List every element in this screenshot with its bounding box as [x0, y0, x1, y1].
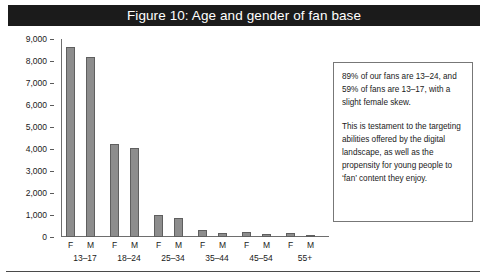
- y-axis-tick-label: 2,000: [26, 188, 50, 198]
- bar: [66, 47, 75, 237]
- x-axis-gender-label: M: [259, 240, 275, 250]
- x-axis-gender-label: F: [283, 240, 299, 250]
- x-axis-gender-label: F: [195, 240, 211, 250]
- x-axis-age-label: 13–17: [63, 253, 107, 263]
- y-axis-tick: 6,000: [26, 100, 54, 110]
- x-axis-gender-label: F: [63, 240, 79, 250]
- y-axis-tick-label: 1,000: [26, 210, 50, 220]
- x-axis-age-label: 55+: [283, 253, 327, 263]
- bar: [130, 148, 139, 237]
- bar: [174, 218, 183, 237]
- x-axis-age-label: 35–44: [195, 253, 239, 263]
- y-axis-tick-mark: [50, 61, 54, 62]
- y-axis-tick: 5,000: [26, 122, 54, 132]
- y-axis-tick: 3,000: [26, 166, 54, 176]
- bar: [262, 234, 271, 237]
- y-axis-tick-label: 3,000: [26, 166, 50, 176]
- bar: [306, 235, 315, 237]
- page-title: Figure 10: Age and gender of fan base: [127, 8, 361, 23]
- figure-container: Figure 10: Age and gender of fan base 01…: [0, 0, 486, 277]
- y-axis-tick-label: 0: [42, 232, 50, 242]
- y-axis-tick-mark: [50, 127, 54, 128]
- footer-divider: [6, 271, 480, 272]
- y-axis-tick: 1,000: [26, 210, 54, 220]
- x-axis-labels: FM13–17FM18–24FM25–34FM35–44FM45–54FM55+: [62, 240, 330, 270]
- y-axis-tick-mark: [50, 105, 54, 106]
- y-axis-tick: 4,000: [26, 144, 54, 154]
- y-axis-tick-label: 4,000: [26, 144, 50, 154]
- figure-title-banner: Figure 10: Age and gender of fan base: [8, 5, 480, 26]
- y-axis-tick-mark: [50, 193, 54, 194]
- y-axis-tick-mark: [50, 237, 54, 238]
- y-axis-tick-mark: [50, 149, 54, 150]
- bar: [242, 232, 251, 237]
- bar: [198, 230, 207, 237]
- callout-textbox: 89% of our fans are 13–24, and 59% of fa…: [333, 62, 473, 222]
- y-axis-tick: 9,000: [26, 34, 54, 44]
- y-axis-tick: 7,000: [26, 78, 54, 88]
- y-axis-tick-mark: [50, 171, 54, 172]
- y-axis-tick-mark: [50, 215, 54, 216]
- bar-series: [62, 39, 328, 237]
- bar: [86, 57, 95, 237]
- x-axis-gender-label: F: [107, 240, 123, 250]
- bar: [154, 215, 163, 237]
- x-axis-gender-label: M: [127, 240, 143, 250]
- y-axis-tick: 2,000: [26, 188, 54, 198]
- bar: [218, 233, 227, 237]
- y-axis: 01,0002,0003,0004,0005,0006,0007,0008,00…: [0, 32, 54, 234]
- callout-paragraph: This is testament to the targeting abili…: [342, 120, 464, 186]
- x-axis-age-label: 18–24: [107, 253, 151, 263]
- x-axis-age-label: 25–34: [151, 253, 195, 263]
- y-axis-tick-label: 9,000: [26, 34, 50, 44]
- x-axis-gender-label: M: [303, 240, 319, 250]
- y-axis-tick-label: 7,000: [26, 78, 50, 88]
- y-axis-tick-label: 5,000: [26, 122, 50, 132]
- x-axis-gender-label: M: [171, 240, 187, 250]
- y-axis-tick-mark: [50, 39, 54, 40]
- y-axis-tick-label: 8,000: [26, 56, 50, 66]
- y-axis-tick: 0: [42, 232, 54, 242]
- callout-paragraph: 89% of our fans are 13–24, and 59% of fa…: [342, 70, 464, 110]
- bar: [110, 144, 119, 238]
- x-axis-age-label: 45–54: [239, 253, 283, 263]
- x-axis-gender-label: F: [151, 240, 167, 250]
- y-axis-tick: 8,000: [26, 56, 54, 66]
- x-axis-gender-label: M: [83, 240, 99, 250]
- x-axis-gender-label: F: [239, 240, 255, 250]
- x-axis-gender-label: M: [215, 240, 231, 250]
- y-axis-tick-label: 6,000: [26, 100, 50, 110]
- y-axis-tick-mark: [50, 83, 54, 84]
- bar: [286, 233, 295, 237]
